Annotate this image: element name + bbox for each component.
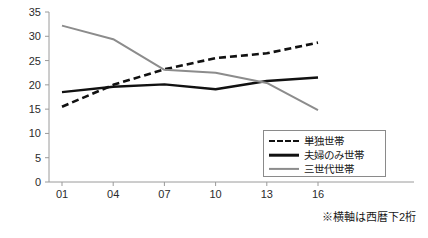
x-tick-label: 07 — [158, 188, 170, 200]
legend-label: 三世代世帯 — [304, 163, 354, 176]
y-tick-label: 25 — [29, 55, 41, 67]
legend-item-sanseidai: 三世代世帯 — [269, 162, 380, 176]
x-tick-label: 16 — [312, 188, 324, 200]
series-line — [62, 26, 318, 111]
solid-black-line-icon — [269, 149, 299, 161]
legend-label: 夫婦のみ世帯 — [304, 149, 364, 162]
y-tick-label: 0 — [35, 176, 41, 188]
y-tick-label: 20 — [29, 79, 41, 91]
y-axis-ticks — [45, 12, 49, 182]
x-tick-labels: 010407101316 — [56, 188, 324, 200]
y-tick-label: 15 — [29, 103, 41, 115]
legend-item-fufunomi: 夫婦のみ世帯 — [269, 148, 380, 162]
series-line — [62, 43, 318, 107]
x-tick-label: 04 — [107, 188, 119, 200]
x-tick-label: 10 — [209, 188, 221, 200]
line-chart: 05101520253035 010407101316 単独世帯 夫婦のみ世帯 … — [0, 0, 428, 238]
y-tick-label: 5 — [35, 152, 41, 164]
legend-label: 単独世帯 — [304, 135, 344, 148]
legend-item-tandoku: 単独世帯 — [269, 134, 380, 148]
chart-footnote: ※横軸は西暦下2桁 — [322, 208, 416, 224]
chart-canvas: 05101520253035 010407101316 — [0, 0, 428, 238]
solid-gray-line-icon — [269, 163, 299, 175]
series-lines — [62, 26, 318, 111]
chart-legend: 単独世帯 夫婦のみ世帯 三世代世帯 — [263, 130, 386, 177]
x-tick-label: 01 — [56, 188, 68, 200]
y-tick-labels: 05101520253035 — [29, 6, 41, 188]
dashed-line-icon — [269, 135, 299, 147]
y-tick-label: 35 — [29, 6, 41, 18]
x-tick-label: 13 — [261, 188, 273, 200]
y-tick-label: 30 — [29, 30, 41, 42]
x-axis-ticks — [62, 182, 318, 186]
y-tick-label: 10 — [29, 127, 41, 139]
